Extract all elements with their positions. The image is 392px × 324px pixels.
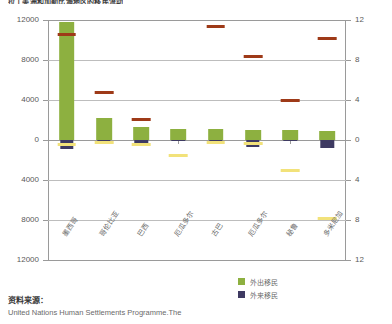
bar-emigrant bbox=[133, 127, 149, 140]
y-axis-tick bbox=[346, 180, 351, 181]
legend-label: 外出移民 bbox=[250, 277, 278, 287]
chart-legend: 外出移民 外来移民 bbox=[238, 276, 278, 302]
source-footer: 资料来源： United Nations Human Settlements P… bbox=[8, 296, 238, 318]
legend-label: 外来移民 bbox=[250, 290, 278, 300]
y-axis-label-right: 12 bbox=[355, 255, 364, 264]
bar-emigrant bbox=[282, 130, 298, 140]
legend-swatch-immigrant bbox=[238, 291, 245, 298]
bar-immigrant bbox=[172, 140, 185, 141]
y-axis-label-right: 0 bbox=[355, 135, 359, 144]
y-axis-tick bbox=[346, 220, 351, 221]
marker-immigrant-rate bbox=[132, 143, 151, 146]
y-axis-label-right: 8 bbox=[355, 55, 359, 64]
bar-emigrant bbox=[96, 118, 112, 140]
y-axis-label-left: 0 bbox=[0, 135, 39, 144]
bar-emigrant bbox=[171, 129, 187, 141]
bar-immigrant bbox=[321, 140, 334, 148]
marker-emigrant-rate bbox=[95, 91, 114, 94]
y-axis-label-right: 4 bbox=[355, 175, 359, 184]
y-axis-label-left: 4000 bbox=[0, 95, 39, 104]
marker-immigrant-rate bbox=[281, 169, 300, 172]
bar-emigrant bbox=[245, 130, 261, 141]
y-axis-tick bbox=[346, 140, 351, 141]
marker-immigrant-rate bbox=[95, 141, 114, 144]
y-axis-tick bbox=[346, 100, 351, 101]
y-axis-label-left: 8000 bbox=[0, 215, 39, 224]
bar-emigrant bbox=[59, 22, 75, 140]
legend-item: 外出移民 bbox=[238, 276, 278, 287]
marker-immigrant-rate bbox=[244, 142, 263, 145]
y-axis-label-left: 4000 bbox=[0, 175, 39, 184]
bar-emigrant bbox=[208, 129, 224, 140]
y-axis-label-right: 4 bbox=[355, 95, 359, 104]
y-axis-tick bbox=[346, 260, 351, 261]
chart-title: 拉丁美洲和加勒比海地区的移民流动 bbox=[8, 0, 123, 4]
y-axis-tick bbox=[346, 60, 351, 61]
y-axis-label-left: 8000 bbox=[0, 55, 39, 64]
marker-immigrant-rate bbox=[169, 154, 188, 157]
source-body: United Nations Human Settlements Program… bbox=[8, 308, 238, 318]
legend-item: 外来移民 bbox=[238, 289, 278, 300]
x-axis-labels: 墨西哥哥伦比亚巴西厄瓜多尔古巴厄瓜多尔秘鲁多米尼加 bbox=[48, 232, 346, 278]
marker-emigrant-rate bbox=[318, 37, 337, 40]
source-heading: 资料来源： bbox=[8, 296, 238, 305]
marker-immigrant-rate bbox=[206, 141, 225, 144]
bar-emigrant bbox=[320, 131, 336, 140]
y-axis-label-left: 12000 bbox=[0, 15, 39, 24]
marker-emigrant-rate bbox=[281, 99, 300, 102]
marker-emigrant-rate bbox=[206, 25, 225, 28]
y-axis-label-right: 8 bbox=[355, 215, 359, 224]
y-axis-tick bbox=[346, 20, 351, 21]
marker-emigrant-rate bbox=[57, 33, 76, 36]
marker-emigrant-rate bbox=[244, 55, 263, 58]
bar-immigrant bbox=[283, 140, 296, 141]
y-axis-label-left: 12000 bbox=[0, 255, 39, 264]
legend-swatch-emigrant bbox=[238, 278, 245, 285]
marker-immigrant-rate bbox=[57, 143, 76, 146]
y-axis-label-right: 12 bbox=[355, 15, 364, 24]
marker-emigrant-rate bbox=[132, 118, 151, 121]
